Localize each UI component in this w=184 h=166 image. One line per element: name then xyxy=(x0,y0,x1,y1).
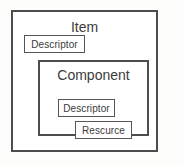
component-container[interactable]: Component Descriptor Rescurce xyxy=(38,60,149,136)
item-container[interactable]: Item Descriptor Component Descriptor Res… xyxy=(11,10,158,152)
item-descriptor-box[interactable]: Descriptor xyxy=(24,35,85,53)
component-rescurce-box[interactable]: Rescurce xyxy=(75,121,132,139)
item-descriptor-label: Descriptor xyxy=(25,39,84,50)
component-title: Component xyxy=(40,67,147,83)
component-descriptor-box[interactable]: Descriptor xyxy=(58,99,115,117)
component-rescurce-label: Rescurce xyxy=(76,125,131,136)
item-title: Item xyxy=(13,19,156,35)
component-descriptor-label: Descriptor xyxy=(59,103,114,114)
diagram-canvas: Item Descriptor Component Descriptor Res… xyxy=(0,0,184,166)
